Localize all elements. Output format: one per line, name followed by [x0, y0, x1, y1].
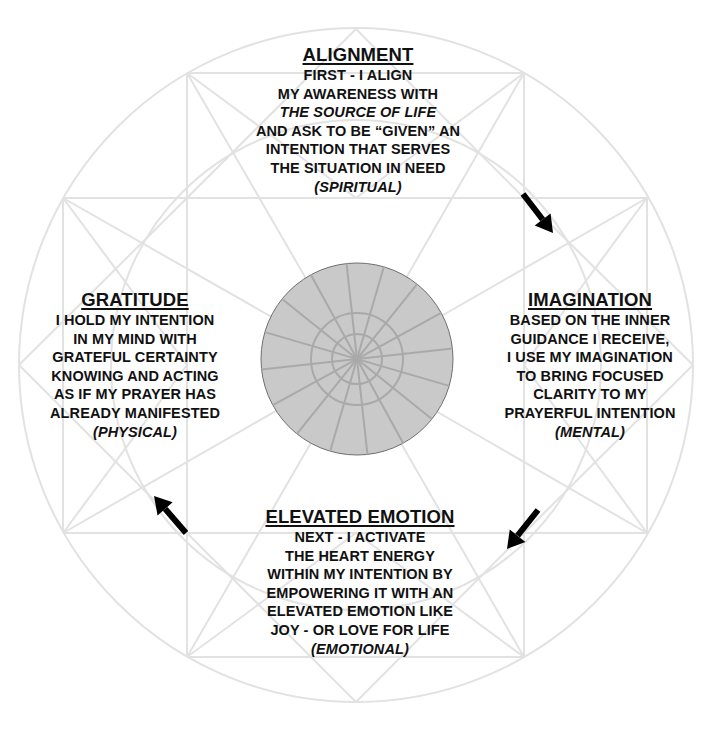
elevated-emotion-category: (EMOTIONAL)	[228, 640, 492, 659]
alignment-category: (SPIRITUAL)	[228, 178, 488, 197]
gratitude-line: I HOLD MY INTENTION	[10, 311, 260, 330]
elevated-emotion-section: ELEVATED EMOTION NEXT - I ACTIVATE THE H…	[228, 506, 492, 658]
imagination-line: BASED ON THE INNER	[460, 311, 720, 330]
alignment-line: FIRST - I ALIGN	[228, 66, 488, 85]
arrow-down-left-icon	[507, 510, 538, 549]
elevated-emotion-line: EMPOWERING IT WITH AN	[228, 584, 492, 603]
elevated-emotion-line: ELEVATED EMOTION LIKE	[228, 602, 492, 621]
alignment-line: THE SITUATION IN NEED	[228, 159, 488, 178]
imagination-line: CLARITY TO MY	[460, 385, 720, 404]
gratitude-line: KNOWING AND ACTING	[10, 367, 260, 386]
imagination-line: TO BRING FOCUSED	[460, 367, 720, 386]
gratitude-category: (PHYSICAL)	[10, 423, 260, 442]
elevated-emotion-line: NEXT - I ACTIVATE	[228, 528, 492, 547]
gratitude-title: GRATITUDE	[10, 289, 260, 311]
gratitude-section: GRATITUDE I HOLD MY INTENTION IN MY MIND…	[10, 289, 260, 441]
imagination-title: IMAGINATION	[460, 289, 720, 311]
alignment-italic-line: THE SOURCE OF LIFE	[228, 103, 488, 122]
alignment-line: AND ASK TO BE “GIVEN” AN	[228, 122, 488, 141]
alignment-title: ALIGNMENT	[228, 44, 488, 66]
elevated-emotion-line: JOY - OR LOVE FOR LIFE	[228, 621, 492, 640]
alignment-line: MY AWARENESS WITH	[228, 85, 488, 104]
gratitude-line: GRATEFUL CERTAINTY	[10, 348, 260, 367]
center-circle	[261, 263, 453, 455]
gratitude-line: ALREADY MANIFESTED	[10, 404, 260, 423]
imagination-section: IMAGINATION BASED ON THE INNER GUIDANCE …	[460, 289, 720, 441]
arrow-up-left-icon	[154, 496, 186, 533]
gratitude-line: IN MY MIND WITH	[10, 330, 260, 349]
imagination-category: (MENTAL)	[460, 423, 720, 442]
alignment-section: ALIGNMENT FIRST - I ALIGN MY AWARENESS W…	[228, 44, 488, 196]
elevated-emotion-line: THE HEART ENERGY	[228, 547, 492, 566]
imagination-line: GUIDANCE I RECEIVE,	[460, 330, 720, 349]
elevated-emotion-line: WITHIN MY INTENTION BY	[228, 565, 492, 584]
alignment-line: INTENTION THAT SERVES	[228, 140, 488, 159]
imagination-line: PRAYERFUL INTENTION	[460, 404, 720, 423]
gratitude-line: AS IF MY PRAYER HAS	[10, 385, 260, 404]
imagination-line: I USE MY IMAGINATION	[460, 348, 720, 367]
elevated-emotion-title: ELEVATED EMOTION	[228, 506, 492, 528]
